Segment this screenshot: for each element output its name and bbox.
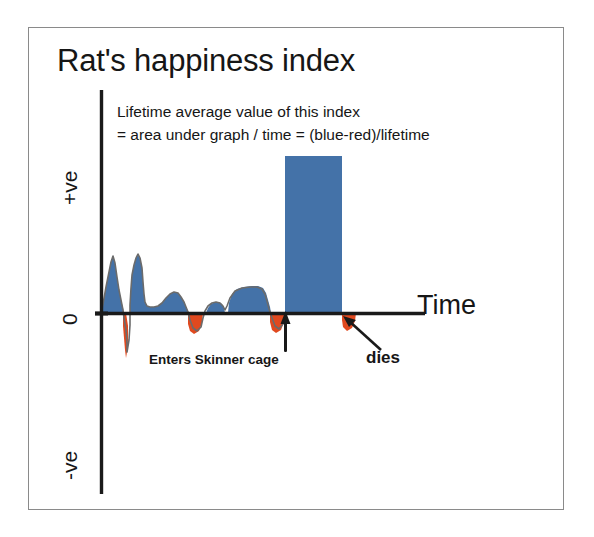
positive-area-skinner-block <box>285 156 342 313</box>
positive-area-group <box>101 156 342 313</box>
x-axis-label-time: Time <box>417 290 476 321</box>
y-axis-label-zero: 0 <box>58 313 82 325</box>
page-title: Rat's happiness index <box>57 43 355 79</box>
happiness-index-chart <box>0 0 594 537</box>
positive-area-mid <box>206 302 225 313</box>
note-line-2: = area under graph / time = (blue-red)/l… <box>117 126 430 144</box>
dies-marker <box>343 316 381 350</box>
positive-area-broad <box>228 286 271 313</box>
annotation-dies: dies <box>366 348 400 368</box>
annotation-enters-skinner-cage: Enters Skinner cage <box>149 352 279 368</box>
slide-canvas: Rat's happiness index Lifetime average v… <box>0 0 594 537</box>
y-axis-label-positive: +ve <box>58 171 82 205</box>
note-line-1: Lifetime average value of this index <box>117 103 360 121</box>
y-axis-label-negative: -ve <box>58 451 82 480</box>
positive-area-early <box>101 256 124 313</box>
